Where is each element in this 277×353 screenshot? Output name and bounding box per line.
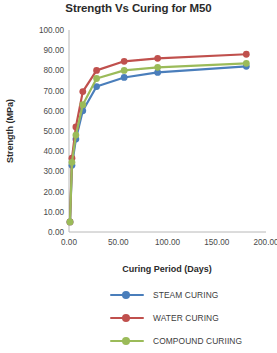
x-tick-label: 50.00 (108, 238, 129, 247)
chart-container: Strength Vs Curing for M50 0.0010.0020.0… (0, 0, 277, 353)
data-point-marker (121, 58, 128, 65)
y-tick-label: 50.00 (44, 127, 65, 136)
legend-label: STEAM CURING (153, 290, 218, 300)
chart-legend: STEAM CURINGWATER CURINGCOMPOUND CURIING (0, 283, 277, 352)
data-point-marker (69, 159, 76, 166)
data-point-marker (72, 132, 79, 139)
x-tick-label: 150.00 (204, 238, 229, 247)
legend-item[interactable]: WATER CURING (0, 306, 277, 329)
y-tick-label: 0.00 (48, 228, 64, 237)
y-tick-label: 40.00 (44, 147, 65, 156)
data-point-marker (121, 74, 128, 81)
data-point-marker (67, 219, 74, 226)
y-tick-label: 60.00 (44, 107, 65, 116)
legend-item[interactable]: COMPOUND CURIING (0, 329, 277, 352)
legend-item[interactable]: STEAM CURING (0, 283, 277, 306)
legend-swatch (110, 336, 144, 346)
y-tick-label: 70.00 (44, 87, 65, 96)
data-series-group (67, 51, 250, 225)
data-point-marker (243, 51, 250, 58)
legend-marker-icon (122, 314, 130, 322)
data-point-marker (154, 55, 161, 62)
data-point-marker (121, 67, 128, 74)
x-tick-label: 0.00 (61, 238, 77, 247)
data-point-marker (93, 75, 100, 82)
y-axis-title: Strength (MPa) (5, 99, 15, 163)
x-tick-label: 200.00 (253, 238, 277, 247)
legend-label: COMPOUND CURIING (153, 336, 242, 346)
legend-swatch (110, 290, 144, 300)
y-tick-label: 30.00 (44, 167, 65, 176)
data-point-marker (79, 101, 86, 108)
data-point-marker (243, 60, 250, 67)
legend-marker-icon (122, 291, 130, 299)
y-tick-label: 100.00 (39, 26, 64, 35)
y-tick-label: 80.00 (44, 66, 65, 75)
x-tick-label: 100.00 (155, 238, 180, 247)
data-point-marker (154, 64, 161, 71)
y-tick-label: 20.00 (44, 188, 65, 197)
y-tick-label: 10.00 (44, 208, 65, 217)
y-tick-label: 90.00 (44, 46, 65, 55)
x-axis-tick-labels: 0.0050.00100.00150.00200.00 (61, 238, 277, 247)
legend-marker-icon (122, 337, 130, 345)
y-axis-tick-labels: 0.0010.0020.0030.0040.0050.0060.0070.008… (39, 26, 64, 237)
data-point-marker (79, 88, 86, 95)
legend-swatch (110, 313, 144, 323)
legend-label: WATER CURING (153, 313, 219, 323)
x-axis-title: Curing Period (Days) (122, 264, 212, 274)
data-point-marker (93, 67, 100, 74)
